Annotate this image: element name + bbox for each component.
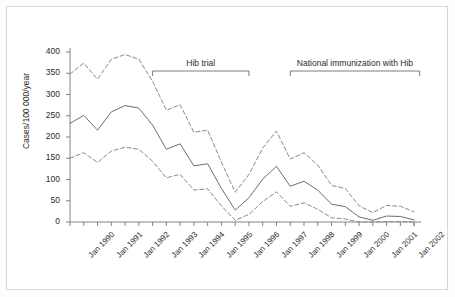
series-line (70, 55, 414, 213)
series-line (70, 106, 414, 221)
series-line (70, 147, 414, 222)
figure-container: Cases/100 000/year 050100150200250300350… (0, 0, 455, 297)
annotation-bracket (153, 71, 249, 76)
annotation-bracket (290, 71, 419, 76)
line-chart-plot (0, 0, 455, 297)
